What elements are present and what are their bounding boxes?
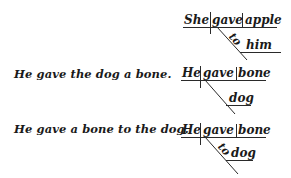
modifier-object-word: dog: [231, 147, 256, 159]
subject-word: He: [182, 67, 201, 79]
modifier-object-word: dog: [229, 92, 254, 104]
object-word: bone: [238, 67, 271, 79]
sentence-text: He gave a bone to the dog.: [14, 122, 189, 136]
verb-word: gave: [212, 14, 243, 26]
subject-word: He: [182, 124, 201, 136]
verb-word: gave: [203, 67, 234, 79]
modifier-object-word: him: [246, 39, 272, 51]
subject-word: She: [184, 14, 209, 26]
object-word: bone: [238, 124, 271, 136]
verb-word: gave: [203, 124, 234, 136]
object-word: apple: [245, 14, 282, 26]
sentence-text: He gave the dog a bone.: [14, 67, 172, 81]
